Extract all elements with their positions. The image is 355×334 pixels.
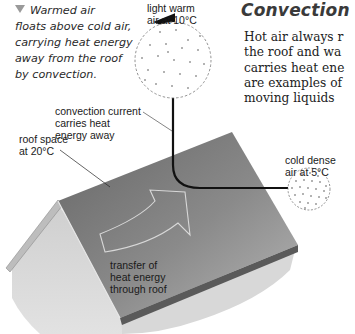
label-line: roof space [19, 133, 68, 145]
section-body: Hot air always r the roof and wa carries… [244, 30, 344, 106]
body-line: carries heat ene [244, 61, 344, 76]
label-line: at 20°C [19, 145, 68, 157]
section-title: Convection [241, 0, 350, 20]
body-line: Hot air always r [244, 30, 344, 45]
label-line: carries heat [55, 117, 141, 129]
caption-line: floats above cold air, [15, 19, 140, 35]
label-heat-transfer: transfer of heat energy through roof [110, 259, 167, 295]
label-line: through roof [110, 283, 167, 295]
label-line: light warm [147, 2, 197, 14]
caption-line: away from the roof [15, 51, 140, 67]
label-line: heat energy [110, 271, 167, 283]
caption-line: Warmed air [30, 4, 95, 17]
body-line: are examples of [244, 76, 344, 91]
label-line: air at 10°C [147, 14, 197, 26]
label-line: transfer of [110, 259, 167, 271]
figure-caption: Warmed air floats above cold air, carryi… [15, 3, 140, 83]
label-roof-space: roof space at 20°C [19, 133, 68, 157]
caption-line: carrying heat energy [15, 35, 140, 51]
warm-air-bubble [135, 22, 211, 98]
caption-line: by convection. [15, 67, 140, 83]
body-line: moving liquids [244, 91, 344, 106]
label-line: cold dense [285, 154, 336, 166]
label-line: convection current [55, 105, 141, 117]
label-cold-dense-air: cold dense air at 5°C [285, 154, 336, 178]
triangle-bullet-icon [15, 5, 25, 13]
label-line: air at 5°C [285, 166, 336, 178]
leader-convection [143, 112, 172, 131]
label-light-warm-air: light warm air at 10°C [147, 2, 197, 26]
body-line: the roof and wa [244, 45, 344, 60]
